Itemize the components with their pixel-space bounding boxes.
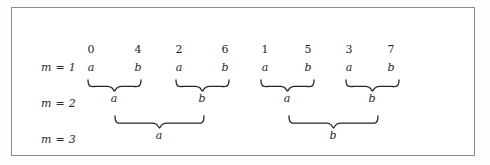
- brace-label-level2: a: [103, 92, 125, 105]
- index-value: 4: [127, 43, 149, 56]
- brace-level2: [87, 79, 142, 91]
- letter-value: a: [338, 61, 360, 74]
- letter-value: b: [297, 61, 319, 74]
- index-value: 7: [380, 43, 402, 56]
- brace-label-level2: b: [191, 92, 213, 105]
- brace-label-level3: a: [148, 129, 170, 142]
- letter-value: a: [254, 61, 276, 74]
- index-value: 1: [254, 43, 276, 56]
- row-label-m3: m = 3: [41, 133, 76, 146]
- letter-value: b: [380, 61, 402, 74]
- brace-level2: [175, 79, 230, 91]
- brace-level2: [260, 79, 315, 91]
- index-value: 2: [168, 43, 190, 56]
- brace-label-level3: b: [322, 129, 344, 142]
- brace-level3: [114, 115, 205, 128]
- figure-frame: m = 1 m = 2 m = 3 0 4 2 6 1 5 3 7 a b a …: [11, 7, 475, 156]
- letter-value: b: [214, 61, 236, 74]
- index-value: 6: [214, 43, 236, 56]
- row-label-m2: m = 2: [41, 97, 76, 110]
- brace-level2: [345, 79, 400, 91]
- index-value: 3: [338, 43, 360, 56]
- letter-value: a: [168, 61, 190, 74]
- index-value: 0: [80, 43, 102, 56]
- figure-page: m = 1 m = 2 m = 3 0 4 2 6 1 5 3 7 a b a …: [0, 0, 490, 165]
- letter-value: b: [127, 61, 149, 74]
- index-value: 5: [297, 43, 319, 56]
- row-label-m1: m = 1: [41, 61, 76, 74]
- brace-label-level2: a: [276, 92, 298, 105]
- letter-value: a: [80, 61, 102, 74]
- brace-level3: [288, 115, 379, 128]
- brace-label-level2: b: [361, 92, 383, 105]
